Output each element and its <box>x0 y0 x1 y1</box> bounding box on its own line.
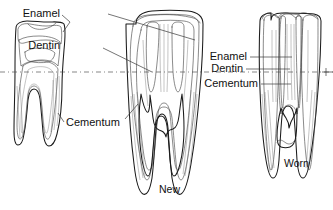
label-dentin-right: Dentin <box>211 62 243 74</box>
right-tooth-shading <box>262 24 318 172</box>
center-tooth <box>126 10 203 194</box>
center-tooth-shading <box>131 24 197 180</box>
label-enamel-right: Enamel <box>210 50 247 62</box>
label-dentin-left: Dentin <box>28 39 60 51</box>
label-enamel-left: Enamel <box>23 7 60 19</box>
right-tooth-infundibulum-left <box>280 16 286 108</box>
tooth-anatomy-figure: Enamel Dentin Cementum Enamel Dentin Cem… <box>0 0 333 210</box>
caption-new: New <box>159 183 180 195</box>
left-tooth-crown-notch <box>28 23 56 29</box>
leader-enamel-left-to-center-tooth <box>108 14 195 40</box>
figure-canvas: Enamel Dentin Cementum Enamel Dentin Cem… <box>0 0 333 210</box>
center-tooth-infundibulum-right <box>172 22 184 92</box>
center-tooth-dentin-layer <box>136 20 194 170</box>
right-tooth-enamel-layer-right <box>302 15 318 170</box>
right-tooth <box>259 13 321 178</box>
caption-worn: Worn <box>284 157 309 169</box>
leader-cementum-left-to-center-tooth <box>125 104 138 119</box>
right-tooth-enamel-layer <box>263 15 279 170</box>
label-cementum-right: Cementum <box>204 77 258 89</box>
label-cementum-left: Cementum <box>66 116 120 128</box>
center-tooth-infundibulum-left <box>146 22 159 92</box>
